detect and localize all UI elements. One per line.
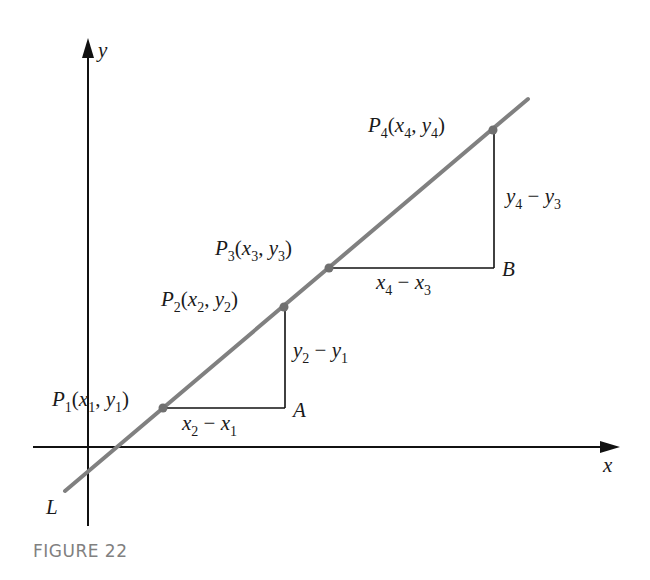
point-p2 xyxy=(280,303,289,312)
rise-label-1: y2 − y1 xyxy=(293,340,348,361)
figure-caption: FIGURE 22 xyxy=(33,541,128,561)
y-axis-label: y xyxy=(98,40,107,61)
line-L xyxy=(65,99,528,491)
run-label-2: x4 − x3 xyxy=(376,272,431,293)
point-p2-label: P2(x2, y2) xyxy=(161,289,238,310)
point-p3-label: P3(x3, y3) xyxy=(215,238,292,259)
corner-b-label: B xyxy=(502,259,515,280)
x-axis-arrow-icon xyxy=(600,441,620,453)
point-p1-label: P1(x1, y1) xyxy=(52,389,129,410)
point-p4-label: P4(x4, y4) xyxy=(368,115,445,136)
point-p1 xyxy=(159,404,168,413)
slope-figure: y x L P4(x4, y4) P3(x3, y3) P2(x2, y2) P… xyxy=(0,0,650,580)
point-p3 xyxy=(325,264,334,273)
point-p4 xyxy=(489,126,498,135)
rise-label-2: y4 − y3 xyxy=(506,186,561,207)
y-axis xyxy=(82,38,94,526)
line-L-label: L xyxy=(46,497,58,518)
corner-a-label: A xyxy=(293,400,306,421)
x-axis-label: x xyxy=(603,455,612,476)
diagram-canvas xyxy=(0,0,650,580)
run-label-1: x2 − x1 xyxy=(182,413,237,434)
y-axis-arrow-icon xyxy=(82,38,94,58)
